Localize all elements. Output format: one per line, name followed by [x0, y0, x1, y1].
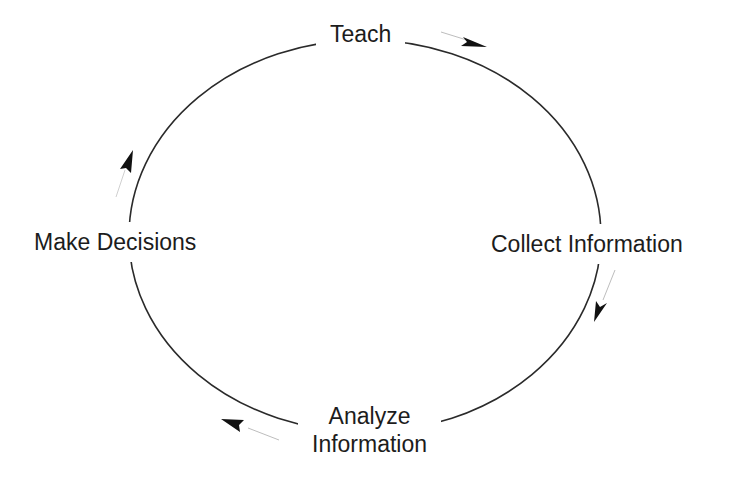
node-label: Collect Information — [491, 231, 683, 257]
node-teach: Teach — [316, 20, 405, 48]
arrow-icon-collect-to-analyze — [594, 270, 615, 322]
arrow-icon-decisions-to-teach — [116, 150, 133, 197]
node-label: Make Decisions — [34, 229, 196, 255]
node-label-line-2: Information — [312, 430, 427, 458]
arrow-icon-analyze-to-decisions — [221, 419, 279, 440]
node-make-decisions: Make Decisions — [30, 222, 200, 262]
node-collect-information: Collect Information — [487, 224, 687, 264]
node-label-line-1: Analyze — [312, 402, 427, 430]
arrow-icon-teach-to-collect — [441, 32, 487, 47]
node-analyze-information: Analyze Information — [298, 402, 441, 458]
node-label: Teach — [330, 21, 391, 47]
